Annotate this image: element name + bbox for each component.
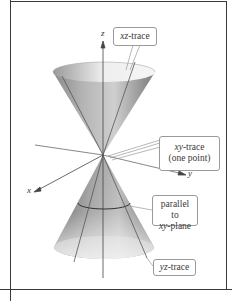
callout-parallel-line1: parallel to [156, 199, 194, 221]
upper-nappe [53, 62, 155, 155]
callout-xz-trace: xz-trace [113, 27, 157, 46]
callout-xy-var: xy [174, 142, 182, 152]
callout-xz-suffix: -trace [128, 31, 150, 41]
callout-yz-var: yz [160, 262, 168, 272]
x-axis-label: x [27, 185, 31, 195]
callout-xy-trace: xy-trace (one point) [159, 136, 220, 171]
callout-parallel-suffix: -plane [167, 221, 191, 231]
callout-yz-trace: yz-trace [153, 259, 196, 276]
callout-parallel-xy-plane: parallel to xy-plane [152, 195, 198, 226]
callout-yz-suffix: -trace [168, 262, 190, 272]
callout-xz-var: xz [120, 31, 128, 41]
lower-nappe [54, 155, 154, 262]
callout-xy-line2: (one point) [163, 153, 216, 164]
callout-xy-suffix: -trace [183, 142, 205, 152]
z-axis-label: z [101, 28, 105, 38]
